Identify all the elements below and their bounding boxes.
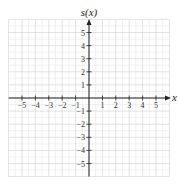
y-tick-label: 4 <box>81 42 85 51</box>
y-axis-arrow-icon <box>87 19 92 25</box>
y-tick-label: −1 <box>76 107 85 116</box>
x-tick-label: 4 <box>141 101 145 110</box>
coordinate-plane: −5−4−3−2−11234554321−1−2−3−4−5 x s(x) <box>0 0 178 187</box>
y-tick-label: −5 <box>76 160 85 169</box>
x-tick-label: −3 <box>45 101 54 110</box>
y-tick-label: 5 <box>81 29 85 38</box>
x-tick-label: −4 <box>31 101 40 110</box>
x-tick-label: 1 <box>100 101 104 110</box>
x-axis-arrow-icon <box>165 96 171 101</box>
x-axis-label: x <box>171 91 177 103</box>
x-tick-label: −5 <box>18 101 27 110</box>
y-tick-label: 3 <box>81 55 85 64</box>
axes <box>9 19 171 177</box>
x-tick-label: 5 <box>154 101 158 110</box>
x-tick-label: −2 <box>58 101 67 110</box>
x-tick-label: 2 <box>114 101 118 110</box>
y-tick-label: −3 <box>76 133 85 142</box>
y-tick-label: −2 <box>76 120 85 129</box>
y-axis-label: s(x) <box>81 6 98 19</box>
y-tick-label: 1 <box>81 81 85 90</box>
y-tick-label: 2 <box>81 68 85 77</box>
x-tick-label: 3 <box>127 101 131 110</box>
y-tick-label: −4 <box>76 146 85 155</box>
